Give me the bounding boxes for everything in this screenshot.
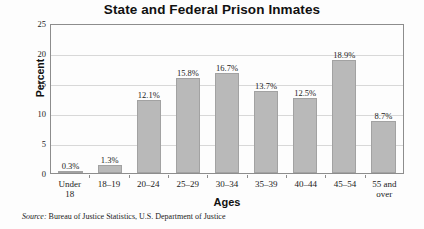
bar-slot: 13.7% xyxy=(247,25,286,173)
y-tick-label: 10 xyxy=(6,109,46,119)
x-tick-mark xyxy=(325,175,326,178)
x-tick-mark xyxy=(247,175,248,178)
x-tick-label-line: 18–19 xyxy=(89,179,128,189)
x-tick-label-line: 25–29 xyxy=(168,179,207,189)
x-tick-label-line: 55 and xyxy=(365,179,404,189)
x-axis-label: Ages xyxy=(50,196,404,208)
bar-slot: 16.7% xyxy=(207,25,246,173)
chart-figure: State and Federal Prison Inmates Percent… xyxy=(0,0,424,229)
bar: 18.9% xyxy=(332,60,356,173)
x-tick-mark xyxy=(365,175,366,178)
bar: 1.3% xyxy=(98,165,122,173)
bar-slot: 18.9% xyxy=(325,25,364,173)
bar: 0.3% xyxy=(58,171,82,173)
bar: 13.7% xyxy=(254,91,278,173)
x-axis-tick-marks xyxy=(50,175,404,178)
bar-value-label: 16.7% xyxy=(216,63,238,73)
bar: 12.1% xyxy=(137,100,161,173)
bar-slot: 0.3% xyxy=(51,25,90,173)
x-tick-mark xyxy=(168,175,169,178)
bar: 15.8% xyxy=(176,78,200,173)
plot-area: 0.3%1.3%12.1%15.8%16.7%13.7%12.5%18.9%8.… xyxy=(50,24,404,174)
bar-value-label: 8.7% xyxy=(375,111,393,121)
y-tick-label: 0 xyxy=(6,169,46,179)
bar: 16.7% xyxy=(215,73,239,173)
source-lead: Source: xyxy=(22,212,47,221)
bar-value-label: 12.1% xyxy=(138,90,160,100)
x-tick-label-line: 20–24 xyxy=(129,179,168,189)
bar-slot: 12.1% xyxy=(129,25,168,173)
source-note: Source: Bureau of Justice Statistics, U.… xyxy=(22,212,225,221)
x-tick-mark xyxy=(207,175,208,178)
bar-value-label: 18.9% xyxy=(333,50,355,60)
y-tick-label: 20 xyxy=(6,49,46,59)
bar-series: 0.3%1.3%12.1%15.8%16.7%13.7%12.5%18.9%8.… xyxy=(51,25,403,173)
x-tick-mark xyxy=(89,175,90,178)
bar-value-label: 15.8% xyxy=(177,68,199,78)
y-tick-label: 25 xyxy=(6,19,46,29)
x-tick-label-line: Under xyxy=(50,179,89,189)
bar: 12.5% xyxy=(293,98,317,173)
bar-value-label: 12.5% xyxy=(294,88,316,98)
source-text: Bureau of Justice Statistics, U.S. Depar… xyxy=(47,212,226,221)
bar-slot: 8.7% xyxy=(364,25,403,173)
x-tick-label-line: 40–44 xyxy=(286,179,325,189)
chart-title: State and Federal Prison Inmates xyxy=(0,2,424,17)
x-tick-label-line: 30–34 xyxy=(207,179,246,189)
y-tick-label: 5 xyxy=(6,139,46,149)
x-tick-label-line: 35–39 xyxy=(247,179,286,189)
bar-value-label: 13.7% xyxy=(255,81,277,91)
y-axis-tick-labels: 0510152025 xyxy=(0,24,46,174)
x-tick-label-line: 45–54 xyxy=(325,179,364,189)
bar-value-label: 0.3% xyxy=(62,161,80,171)
bar-slot: 1.3% xyxy=(90,25,129,173)
bar-slot: 12.5% xyxy=(286,25,325,173)
bar-slot: 15.8% xyxy=(168,25,207,173)
y-tick-label: 15 xyxy=(6,79,46,89)
x-tick-mark xyxy=(129,175,130,178)
bar-value-label: 1.3% xyxy=(101,155,119,165)
x-tick-mark xyxy=(286,175,287,178)
bar: 8.7% xyxy=(371,121,395,173)
